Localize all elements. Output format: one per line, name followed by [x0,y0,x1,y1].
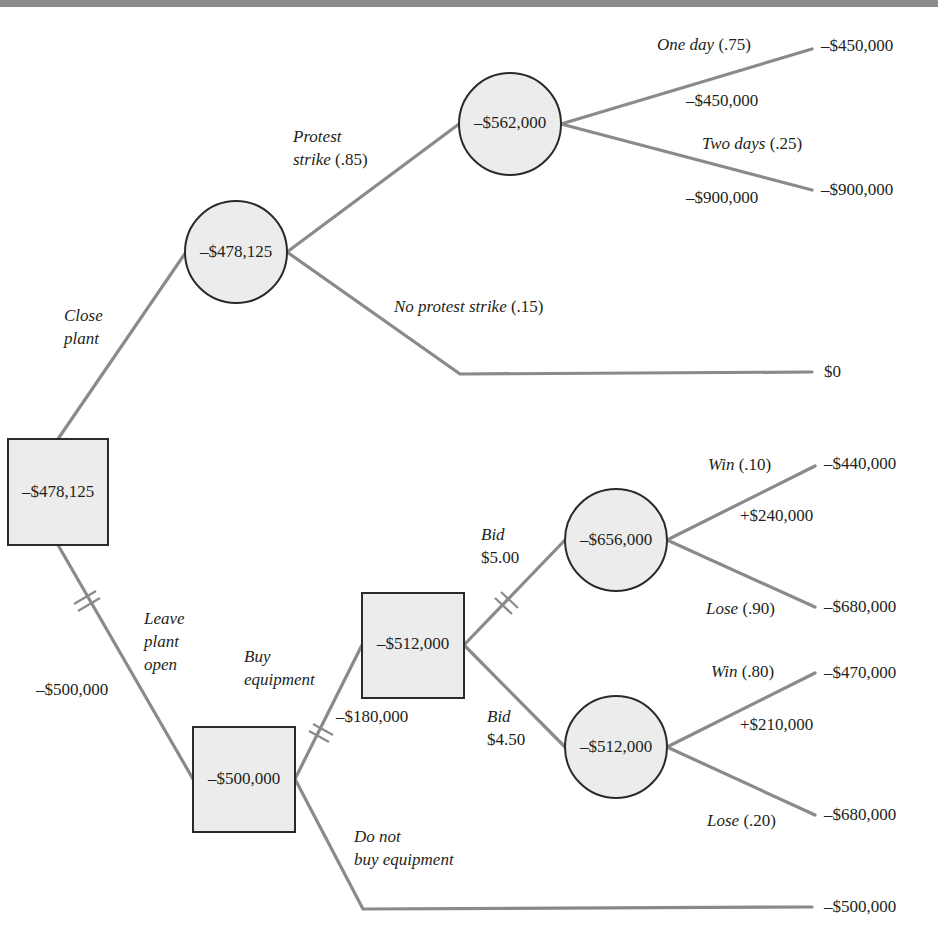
outcome-lose-20: –$680,000 [824,805,896,825]
label-no-protest-text: No protest strike [394,297,507,316]
label-two-days-text: Two days [702,134,765,153]
label-protest-prob: (.85) [331,150,368,169]
close-chance-value: –$478,125 [200,242,272,262]
edge-lose-90 [667,540,815,607]
outcome-no-buy: –$500,000 [824,897,896,917]
open-decision-value: –$500,000 [208,769,280,789]
edge-win-80 [667,673,815,747]
label-protest-word: strike [293,150,331,169]
strike-chance-value: –$562,000 [474,113,546,133]
label-win-80: Win (.80) [711,661,774,682]
gain-win-10: +$240,000 [740,505,813,526]
label-buy-equipment-1: Buy [244,646,270,667]
label-close-plant-1: Close [64,305,103,326]
label-leave-open-1: Leave [144,608,185,629]
label-lose-20-text: Lose [707,811,739,830]
outcome-two-days: –$900,000 [821,180,893,200]
outcome-one-day: –$450,000 [821,36,893,56]
label-win-80-prob: (.80) [737,662,774,681]
label-do-not-buy-2: buy equipment [354,849,454,870]
edge-lose-20 [667,747,815,815]
label-lose-20-prob: (.20) [739,811,776,830]
label-win-10-prob: (.10) [734,455,771,474]
edge-no-protest-strike [287,252,812,374]
label-one-day-text: One day [657,35,714,54]
label-bid-450-2: $4.50 [487,729,525,750]
label-bid-450-1: Bid [487,706,511,727]
label-win-80-text: Win [711,662,737,681]
label-protest-2: strike (.85) [293,149,368,170]
label-one-day: One day (.75) [657,34,751,55]
outcome-no-strike: $0 [824,362,841,382]
label-one-day-prob: (.75) [714,35,751,54]
outcome-lose-90: –$680,000 [824,597,896,617]
outcome-win-80: –$470,000 [824,663,896,683]
gain-win-80: +$210,000 [740,714,813,735]
label-two-days-prob: (.25) [765,134,802,153]
bid-450-chance-value: –$512,000 [580,737,652,757]
label-lose-90-prob: (.90) [738,599,775,618]
label-lose-90: Lose (.90) [706,598,775,619]
label-bid-500-1: Bid [481,524,505,545]
cost-leave-open: –$500,000 [36,679,108,700]
label-lose-90-text: Lose [706,599,738,618]
outcome-win-10: –$440,000 [824,454,896,474]
label-protest-1: Protest [293,126,341,147]
label-no-protest-prob: (.15) [507,297,544,316]
label-lose-20: Lose (.20) [707,810,776,831]
edge-win-10 [667,466,815,540]
edge-one-day [561,49,812,124]
label-win-10-text: Win [708,455,734,474]
label-two-days: Two days (.25) [702,133,802,154]
label-buy-equipment-2: equipment [244,669,315,690]
label-no-protest: No protest strike (.15) [394,296,544,317]
label-leave-open-3: open [144,654,177,675]
cost-buy-equipment: –$180,000 [336,706,408,727]
label-bid-500-2: $5.00 [481,547,519,568]
label-win-10: Win (.10) [708,454,771,475]
label-close-plant-2: plant [64,328,99,349]
label-do-not-buy-1: Do not [354,826,401,847]
root-node-value: –$478,125 [22,482,94,502]
bid-500-chance-value: –$656,000 [580,530,652,550]
label-leave-open-2: plant [144,631,179,652]
cost-one-day: –$450,000 [686,90,758,111]
bid-decision-value: –$512,000 [377,634,449,654]
cost-two-days: –$900,000 [686,187,758,208]
